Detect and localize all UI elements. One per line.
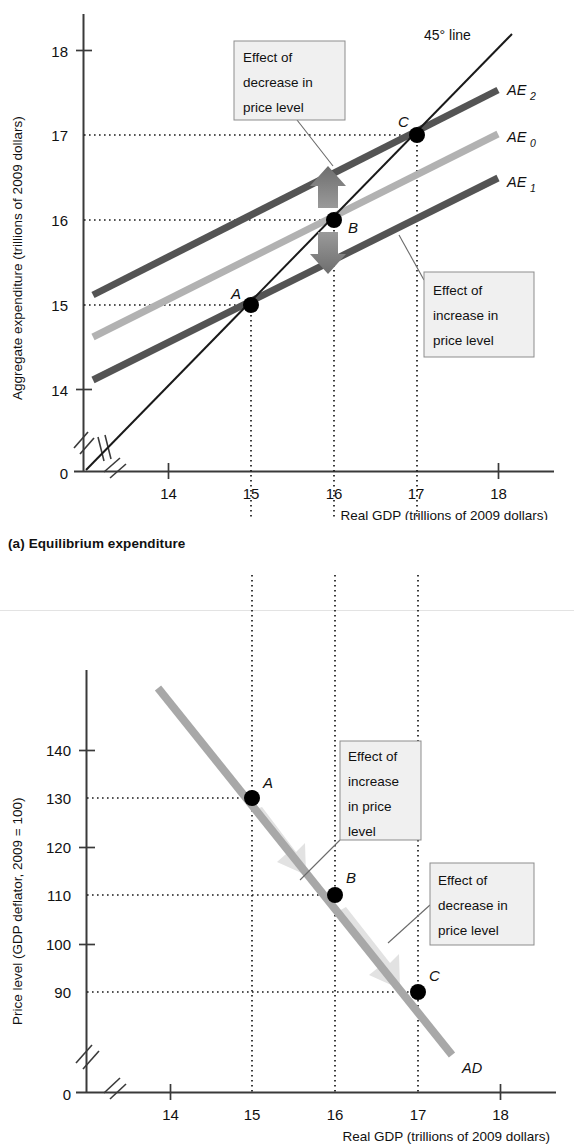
panel-b-xtick-14: 14 <box>162 1106 179 1123</box>
panel-a-point-c[interactable] <box>409 127 425 143</box>
panel-a-xtick-15: 15 <box>243 485 260 502</box>
panel-b-ytick-140: 140 <box>46 742 71 759</box>
panel-b-ytick-130: 130 <box>46 790 71 807</box>
panel-a-series-label-ae0: AE 0 <box>506 129 536 149</box>
panel-a-series-label-ae2-text: AE <box>506 82 527 98</box>
panel-b-callout-increase-line-2: increase <box>348 774 399 789</box>
panel-a-callout-decrease: Effect of decrease in price level <box>234 41 345 120</box>
panel-a-series-label-ae1-sub: 1 <box>530 182 536 194</box>
panel-b-point-c[interactable] <box>410 984 426 1000</box>
panel-b-x-ticks: 14 15 16 17 18 <box>162 1084 509 1123</box>
panel-b-point-a[interactable] <box>244 790 260 806</box>
panel-a-ytick-18: 18 <box>51 43 68 60</box>
panel-a-callout-increase-line-1: Effect of <box>433 283 483 298</box>
panel-b-callout-decrease-line-3: price level <box>438 923 499 938</box>
panel-a-x-axis-title: Real GDP (trillions of 2009 dollars) <box>340 508 548 520</box>
panel-b-point-b[interactable] <box>327 887 343 903</box>
panel-a-point-b[interactable] <box>326 212 342 228</box>
panel-b-callout-decrease-leader <box>388 905 430 943</box>
panel-b-callout-increase-leader <box>300 840 340 880</box>
panel-a-label-45-degree-line: 45° line <box>424 27 471 43</box>
panel-b-ytick-100: 100 <box>46 936 71 953</box>
panel-a-chart: Aggregate expenditure (trillions of 2009… <box>0 0 574 520</box>
panel-a-point-c-label: C <box>398 113 409 130</box>
panel-a-callout-decrease-line-1: Effect of <box>243 50 293 65</box>
panel-a-ytick-17: 17 <box>51 127 68 144</box>
panel-b-callout-increase-line-1: Effect of <box>348 749 398 764</box>
panel-a-series-label-ae2-sub: 2 <box>529 90 536 102</box>
panel-a-series-label-ae0-text: AE <box>506 129 527 145</box>
panel-b-series-label-ad: AD <box>461 1060 482 1076</box>
panel-b-ytick-110: 110 <box>47 887 71 904</box>
panel-a-callout-increase-leader <box>399 235 424 280</box>
panel-b-callout-decrease-line-1: Effect of <box>438 873 488 888</box>
panel-b-callout-increase-line-4: level <box>348 824 376 839</box>
panel-b-callout-increase-line-3: in price <box>348 799 392 814</box>
panel-b-point-c-label: C <box>429 967 440 984</box>
panel-b-x-axis-title: Real GDP (trillions of 2009 dollars) <box>342 1129 550 1144</box>
panel-a-xtick-17: 17 <box>408 485 425 502</box>
panel-a-xtick-16: 16 <box>326 485 343 502</box>
panel-a-series-label-ae1-text: AE <box>506 174 527 190</box>
panel-b-axis-break-icon <box>76 1045 126 1099</box>
panel-b-y-ticks: 90 100 110 120 130 140 <box>46 742 95 1001</box>
panel-a-callout-increase-line-3: price level <box>433 333 494 348</box>
panel-a-y-ticks: 14 15 16 17 18 <box>51 43 92 399</box>
panel-a-y-axis-title: Aggregate expenditure (trillions of 2009… <box>10 116 25 400</box>
panel-a-point-b-label: B <box>348 219 358 236</box>
panel-a-xtick-14: 14 <box>160 485 177 502</box>
panel-b-xtick-16: 16 <box>327 1106 344 1123</box>
panel-a-point-a[interactable] <box>243 297 259 313</box>
panel-a-callout-decrease-leader <box>297 120 333 166</box>
panel-a-series-label-ae1: AE 1 <box>506 174 536 194</box>
panel-b-xtick-15: 15 <box>244 1106 261 1123</box>
panel-b-callout-decrease: Effect of decrease in price level <box>430 863 534 945</box>
panel-b-callout-decrease-line-2: decrease in <box>438 898 508 913</box>
panel-a-ytick-16: 16 <box>51 212 68 229</box>
panel-b-xtick-17: 17 <box>410 1106 427 1123</box>
panel-a-callout-decrease-line-2: decrease in <box>243 75 313 90</box>
figure-root: Aggregate expenditure (trillions of 2009… <box>0 0 574 1145</box>
panel-a-series-label-ae0-sub: 0 <box>530 137 536 149</box>
panel-a-callout-increase-line-2: increase in <box>433 308 498 323</box>
panel-a-callout-increase: Effect of increase in price level <box>424 272 534 357</box>
panel-b-ytick-90: 90 <box>54 984 71 1001</box>
panel-a-droplines <box>84 135 417 520</box>
panel-b-callout-increase: Effect of increase in price level <box>340 741 421 840</box>
panel-a-point-a-label: A <box>230 285 241 302</box>
panel-a-line-ae2 <box>93 90 498 295</box>
panel-a-caption: (a) Equilibrium expenditure <box>8 536 185 551</box>
panel-b-origin-label: 0 <box>63 1086 71 1103</box>
panel-b-point-a-label: A <box>262 774 273 791</box>
panel-a-xtick-18: 18 <box>490 485 507 502</box>
panel-b-xtick-18: 18 <box>492 1106 509 1123</box>
panel-b-y-axis-title: Price level (GDP deflator, 2009 = 100) <box>10 797 25 1025</box>
panel-a-origin-label: 0 <box>60 465 68 482</box>
panel-a-ytick-15: 15 <box>51 297 68 314</box>
panel-b-point-b-label: B <box>346 869 356 886</box>
panel-a-series-label-ae2: AE 2 <box>506 82 536 102</box>
panel-b-chart: Price level (GDP deflator, 2009 = 100) 9… <box>0 575 574 1145</box>
panel-a-ytick-14: 14 <box>51 382 68 399</box>
panel-b-ytick-120: 120 <box>46 839 71 856</box>
panel-a-callout-decrease-line-3: price level <box>243 100 304 115</box>
